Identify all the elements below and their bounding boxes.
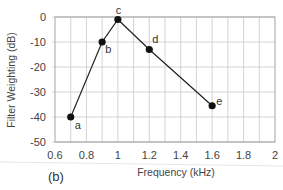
point-label-d: d bbox=[152, 33, 158, 45]
x-tick-label: 1.2 bbox=[142, 149, 157, 161]
x-axis-title: Frequency (kHz) bbox=[137, 166, 215, 178]
point-label-e: e bbox=[216, 95, 222, 107]
grid-lines bbox=[55, 17, 275, 142]
y-tick-label: -20 bbox=[30, 61, 46, 73]
panel-label: (b) bbox=[48, 169, 64, 184]
data-point-a bbox=[67, 113, 74, 120]
x-tick-label: 0.8 bbox=[79, 149, 94, 161]
data-point-e bbox=[209, 102, 216, 109]
x-tick-label: 0.6 bbox=[47, 149, 62, 161]
x-tick-label: 1 bbox=[115, 149, 121, 161]
y-tick-label: -40 bbox=[30, 111, 46, 123]
y-axis-title: Filter Weighting (dB) bbox=[5, 32, 17, 128]
point-label-a: a bbox=[75, 119, 82, 131]
series-line bbox=[71, 20, 212, 118]
y-tick-label: -50 bbox=[30, 136, 46, 148]
filter-weighting-chart: 0-10-20-30-40-50 0.60.811.21.41.61.82 ab… bbox=[0, 0, 283, 190]
x-tick-label: 2 bbox=[272, 149, 278, 161]
data-point-c bbox=[114, 16, 121, 23]
y-tick-label: -30 bbox=[30, 86, 46, 98]
y-tick-label: 0 bbox=[40, 11, 46, 23]
x-axis-ticks: 0.60.811.21.41.61.82 bbox=[47, 149, 278, 161]
y-tick-label: -10 bbox=[30, 36, 46, 48]
point-label-c: c bbox=[116, 4, 122, 16]
x-tick-label: 1.6 bbox=[204, 149, 219, 161]
x-tick-label: 1.4 bbox=[173, 149, 188, 161]
point-label-b: b bbox=[105, 43, 111, 55]
y-axis-ticks: 0-10-20-30-40-50 bbox=[30, 11, 55, 148]
x-tick-label: 1.8 bbox=[236, 149, 251, 161]
data-point-d bbox=[146, 46, 153, 53]
